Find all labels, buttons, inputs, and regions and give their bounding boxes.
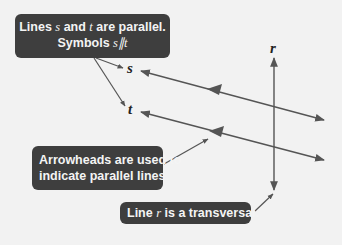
label-t: t xyxy=(128,101,132,118)
label-r: r xyxy=(270,40,276,57)
callout-parallel-line1: Lines s and t are parallel. xyxy=(15,19,170,35)
callout-parallel-line2: Symbols s∥t xyxy=(15,35,170,51)
label-s: s xyxy=(127,60,133,77)
callout-parallel: Lines s and t are parallel. Symbols s∥t xyxy=(15,14,170,58)
callout-arrowheads: Arrowheads are used to indicate parallel… xyxy=(32,146,163,190)
line-s xyxy=(141,71,324,120)
callout-transversal: Line r is a transversal. xyxy=(120,202,251,224)
parallel-arrowhead-t-icon xyxy=(209,126,224,137)
parallel-symbol: s∥t xyxy=(113,36,127,50)
parallel-arrowhead-s-icon xyxy=(207,84,222,95)
pointer-to-t xyxy=(94,58,125,106)
